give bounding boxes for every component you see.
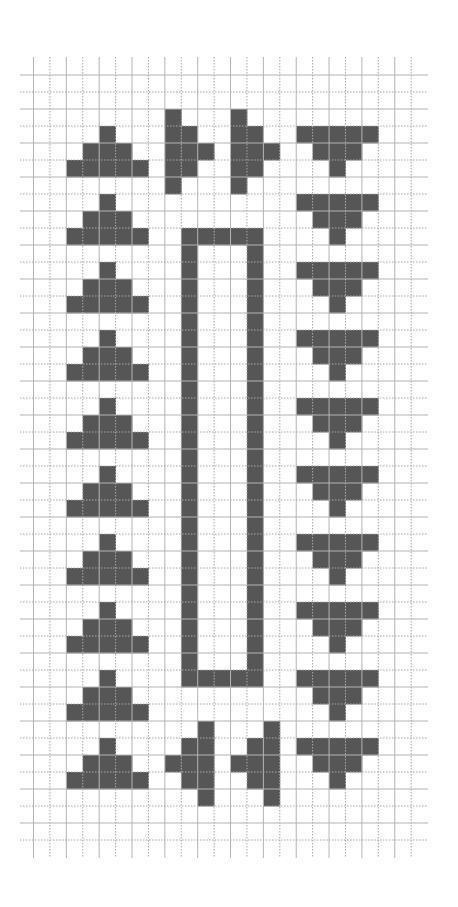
- filled-cell: [99, 687, 116, 704]
- filled-cell: [263, 755, 280, 772]
- filled-cell: [198, 228, 215, 245]
- filled-cell: [181, 143, 198, 160]
- filled-cell: [247, 143, 264, 160]
- filled-cell: [329, 568, 346, 585]
- filled-cell: [181, 279, 198, 296]
- filled-cell: [181, 432, 198, 449]
- filled-cell: [66, 228, 83, 245]
- filled-cell: [181, 755, 198, 772]
- filled-cell: [66, 772, 83, 789]
- chart-background: [0, 0, 458, 907]
- filled-cell: [181, 772, 198, 789]
- filled-cell: [247, 500, 264, 517]
- filled-cell: [99, 262, 116, 279]
- filled-cell: [181, 585, 198, 602]
- filled-cell: [247, 160, 264, 177]
- filled-cell: [99, 704, 116, 721]
- filled-cell: [116, 415, 133, 432]
- filled-cell: [181, 228, 198, 245]
- filled-cell: [99, 398, 116, 415]
- filled-cell: [116, 432, 133, 449]
- filled-cell: [247, 296, 264, 313]
- filled-cell: [116, 500, 133, 517]
- filled-cell: [181, 619, 198, 636]
- filled-cell: [329, 330, 346, 347]
- filled-cell: [99, 636, 116, 653]
- filled-cell: [329, 755, 346, 772]
- filled-cell: [99, 126, 116, 143]
- filled-cell: [247, 330, 264, 347]
- filled-cell: [181, 670, 198, 687]
- filled-cell: [83, 279, 100, 296]
- filled-cell: [99, 551, 116, 568]
- filled-cell: [181, 517, 198, 534]
- filled-cell: [83, 772, 100, 789]
- filled-cell: [99, 772, 116, 789]
- filled-cell: [362, 738, 379, 755]
- filled-cell: [181, 262, 198, 279]
- filled-cell: [116, 483, 133, 500]
- filled-cell: [99, 347, 116, 364]
- filled-cell: [116, 636, 133, 653]
- filled-cell: [231, 143, 248, 160]
- filled-cell: [247, 279, 264, 296]
- filled-cell: [362, 262, 379, 279]
- filled-cell: [83, 687, 100, 704]
- filled-cell: [99, 330, 116, 347]
- filled-cell: [345, 687, 362, 704]
- filled-cell: [345, 602, 362, 619]
- filled-cell: [362, 534, 379, 551]
- filled-cell: [165, 177, 182, 194]
- filled-cell: [198, 670, 215, 687]
- filled-cell: [116, 143, 133, 160]
- filled-cell: [99, 466, 116, 483]
- filled-cell: [362, 466, 379, 483]
- filled-cell: [247, 449, 264, 466]
- filled-cell: [198, 755, 215, 772]
- filled-cell: [116, 228, 133, 245]
- filled-cell: [247, 347, 264, 364]
- filled-cell: [329, 160, 346, 177]
- filled-cell: [247, 772, 264, 789]
- filled-cell: [329, 551, 346, 568]
- filled-cell: [247, 228, 264, 245]
- filled-cell: [181, 398, 198, 415]
- filled-cell: [99, 211, 116, 228]
- filled-cell: [99, 568, 116, 585]
- filled-cell: [181, 653, 198, 670]
- filled-cell: [313, 687, 330, 704]
- filled-cell: [362, 398, 379, 415]
- filled-cell: [83, 551, 100, 568]
- filled-cell: [83, 500, 100, 517]
- filled-cell: [345, 347, 362, 364]
- filled-cell: [132, 228, 149, 245]
- filled-cell: [181, 551, 198, 568]
- filled-cell: [181, 466, 198, 483]
- filled-cell: [329, 602, 346, 619]
- filled-cell: [132, 364, 149, 381]
- filled-cell: [247, 568, 264, 585]
- filled-cell: [165, 755, 182, 772]
- filled-cell: [116, 364, 133, 381]
- filled-cell: [329, 687, 346, 704]
- filled-cell: [345, 483, 362, 500]
- filled-cell: [263, 772, 280, 789]
- filled-cell: [313, 602, 330, 619]
- filled-cell: [313, 194, 330, 211]
- filled-cell: [313, 534, 330, 551]
- filled-cell: [329, 534, 346, 551]
- filled-cell: [313, 483, 330, 500]
- filled-cell: [362, 126, 379, 143]
- filled-cell: [116, 687, 133, 704]
- filled-cell: [99, 670, 116, 687]
- filled-cell: [231, 177, 248, 194]
- filled-cell: [345, 619, 362, 636]
- filled-cell: [362, 670, 379, 687]
- filled-cell: [181, 636, 198, 653]
- filled-cell: [116, 551, 133, 568]
- filled-cell: [313, 738, 330, 755]
- filled-cell: [247, 585, 264, 602]
- filled-cell: [181, 313, 198, 330]
- filled-cell: [345, 398, 362, 415]
- filled-cell: [132, 568, 149, 585]
